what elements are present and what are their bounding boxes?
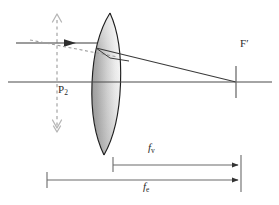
diagram-canvas (0, 0, 279, 205)
principal-plane-label: P2 (58, 84, 68, 97)
dimension-back-focal-distance (113, 157, 238, 172)
optics-ray-diagram: P2 F′ fv fe (0, 0, 279, 205)
incoming-ray-arrowhead (64, 39, 76, 47)
back-focal-distance-label: fv (148, 142, 155, 155)
meniscus-lens (92, 13, 121, 155)
rear-focal-point-label: F′ (240, 38, 249, 49)
effective-focal-length-label: fe (143, 181, 149, 194)
principal-plane-line (53, 14, 62, 132)
